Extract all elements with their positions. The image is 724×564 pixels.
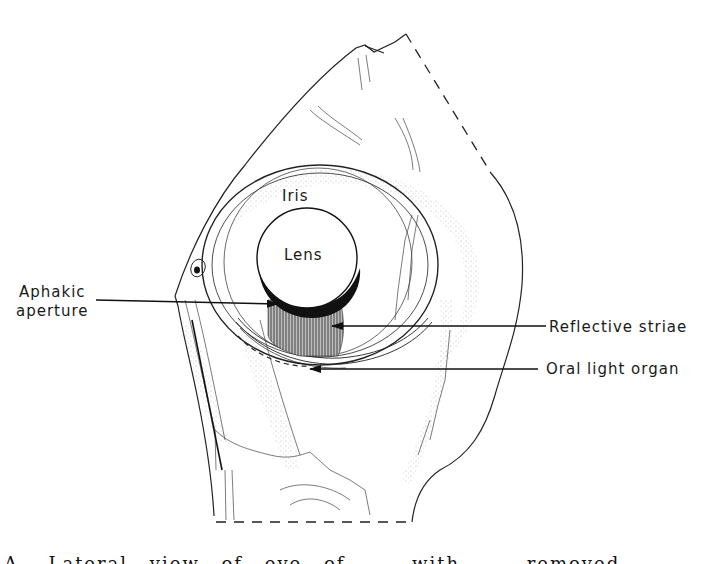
label-lens: Lens xyxy=(284,246,323,264)
figure-caption-text: A. Lateral view of eye of ... with ... r… xyxy=(4,553,724,564)
small-photophore xyxy=(188,257,207,279)
label-iris: Iris xyxy=(282,187,309,205)
label-aphakic-aperture-line2: aperture xyxy=(16,302,89,320)
label-reflective-striae: Reflective striae xyxy=(549,318,687,336)
label-oral-light-organ: Oral light organ xyxy=(546,360,679,378)
label-aphakic-aperture-line1: Aphakic xyxy=(19,283,86,301)
figure-caption: A. Lateral view of eye of ... with ... r… xyxy=(4,553,724,564)
eye-diagram xyxy=(0,0,724,564)
